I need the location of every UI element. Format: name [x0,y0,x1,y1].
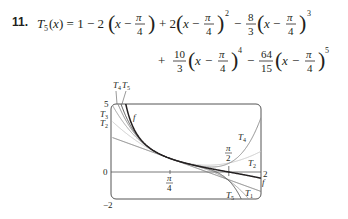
svg-text:−: − [247,53,254,68]
y-label-minus2: −2 [103,200,113,210]
svg-text:−: − [234,16,241,31]
svg-text:−: − [205,53,212,68]
svg-text:−: − [292,53,299,68]
svg-text:x: x [281,53,288,68]
svg-text:x: x [263,16,270,31]
svg-text:2: 2 [225,9,229,18]
svg-text:5: 5 [44,24,48,33]
svg-text:x: x [182,16,189,31]
curve-T5 [113,75,262,219]
label-T5-top: T5 [122,80,130,91]
svg-text:8: 8 [248,11,254,23]
svg-text:π: π [205,11,211,23]
svg-text:π: π [287,11,293,23]
svg-text:64: 64 [261,48,273,60]
svg-text:): ) [148,10,155,35]
label-f-top: f [133,112,137,122]
svg-text:π: π [306,48,312,60]
equation-and-graph: T5 (x) = 1 − 2 ( x− π4 ) + 2 ( x− π4 )2 … [0,0,348,219]
x-label-pi-2-pi: π [226,143,231,153]
svg-text:4: 4 [220,62,226,74]
svg-text:4: 4 [307,62,313,74]
svg-text:x: x [194,53,201,68]
svg-text:3: 3 [307,9,311,18]
y-label-0: 0 [103,167,108,177]
x-label-pi-4-den: 4 [167,183,172,193]
svg-text:3: 3 [177,62,183,74]
curve-T4 [113,90,262,167]
curves [113,0,262,219]
svg-text:5: 5 [325,46,329,55]
axis-labels: 5 0 −2 2 π 4 π 2 [103,99,268,210]
curve-T1 [113,138,262,192]
svg-text:) = 1 − 2: ) = 1 − 2 [59,16,104,31]
svg-text:+ 2: + 2 [159,16,176,31]
y-label-5: 5 [104,99,109,109]
x-label-pi-4-pi: π [167,173,172,183]
label-T4-top: T4 [113,80,121,91]
label-T2-right: T2 [248,158,256,169]
svg-text:−: − [273,16,280,31]
curve-labels: T3 T2 T4 T5 f T4 T2 f T5 T1 [100,80,266,201]
svg-text:x: x [52,16,59,31]
label-T1-bottom: T1 [245,188,253,199]
svg-text:−: − [192,16,199,31]
svg-text:15: 15 [261,62,273,74]
svg-text:−: − [124,16,131,31]
equation-line-1-math: T5 (x) = 1 − 2 ( x− π4 ) + 2 ( x− π4 )2 … [37,9,311,37]
svg-text:4: 4 [238,46,242,55]
label-T4-right: T4 [238,132,246,143]
svg-text:): ) [299,10,306,35]
svg-text:+: + [158,53,165,68]
svg-text:4: 4 [137,25,143,37]
label-T5-bottom: T5 [226,190,234,201]
svg-text:3: 3 [248,25,254,37]
equation-line-2-math: + 103 ( x− π4 )4 − 6415 ( x− π4 )5 [158,46,329,74]
x-label-pi-2-den: 2 [226,153,231,163]
curve-T2 [113,122,262,166]
svg-text:π: π [219,48,225,60]
svg-text:4: 4 [288,25,294,37]
svg-text:4: 4 [206,25,212,37]
svg-text:x: x [114,16,121,31]
svg-text:): ) [217,10,224,35]
svg-text:π: π [136,11,142,23]
svg-text:10: 10 [174,48,186,60]
